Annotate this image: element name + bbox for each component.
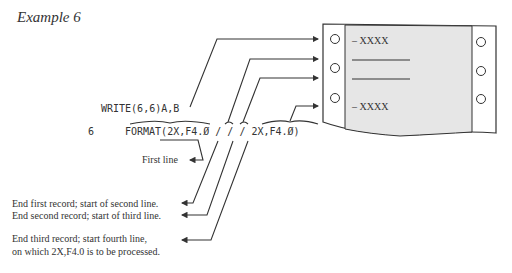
arrow-row4	[290, 106, 318, 121]
end-first-label: End first record; start of second line.	[12, 198, 158, 209]
statement-label: 6	[88, 126, 94, 137]
end-third-label-1: End third record; start fourth line,	[12, 233, 147, 244]
sprocket-hole-icon	[477, 95, 486, 104]
sprocket-hole-icon	[477, 67, 486, 76]
format-diagram: Example 6 – XXXX – XXXX WRITE(6,6)A,B 6 …	[0, 0, 512, 273]
first-line-label: First line	[142, 154, 178, 165]
end-second-label: End second record; start of third line.	[12, 210, 161, 221]
paper-row-4: – XXXX	[351, 101, 389, 112]
sprocket-hole-icon	[331, 94, 340, 103]
arrow-end-first	[182, 141, 218, 203]
brace-3	[240, 122, 248, 124]
arrow-row2	[228, 59, 318, 122]
arrow-row3	[243, 78, 318, 122]
brace-1	[130, 121, 210, 124]
arrow-end-second	[182, 141, 233, 215]
sprocket-hole-icon	[331, 35, 340, 44]
format-statement: FORMAT(2X,F4.Ø / / / 2X,F4.Ø)	[125, 126, 300, 137]
write-statement: WRITE(6,6)A,B	[101, 103, 179, 114]
printer-paper: – XXXX – XXXX	[323, 24, 496, 136]
end-third-label-2: on which 2X,F4.0 is to be processed.	[12, 246, 160, 257]
sprocket-hole-icon	[331, 64, 340, 73]
paper-row-1: – XXXX	[351, 35, 389, 46]
brace-2	[225, 122, 233, 124]
sprocket-hole-icon	[477, 38, 486, 47]
example-title: Example 6	[16, 9, 81, 25]
brace-4	[262, 121, 318, 124]
arrow-row1	[190, 39, 318, 107]
arrow-end-third	[182, 141, 248, 240]
